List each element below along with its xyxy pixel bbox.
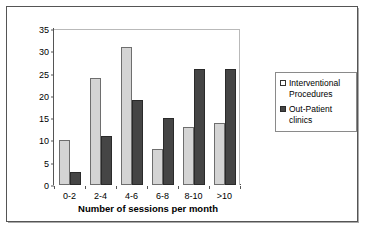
x-tick-label: 4-6 [125,192,138,201]
bar-2-4-interventional[interactable] [90,78,101,185]
x-tick-mark [209,186,210,189]
bar-group [209,29,240,185]
legend-swatch-interventional-icon [280,80,286,86]
chart-frame: % of pain specialists 05101520253035 0-2… [6,6,358,222]
x-tick-mark [54,186,55,189]
bar-group [54,29,85,185]
bar-6-8-interventional[interactable] [152,149,163,185]
bar-2-4-outpatient[interactable] [101,136,112,185]
legend-item: Interventional Procedures [280,78,352,99]
x-tick-label: 8-10 [184,192,202,201]
x-axis-title: Number of sessions per month [54,204,242,214]
legend-swatch-outpatient-icon [280,106,286,112]
x-tick-mark [116,186,117,189]
bar-8-10-interventional[interactable] [183,127,194,185]
x-tick-label: 0-2 [63,192,76,201]
bar-4-6-outpatient[interactable] [132,100,143,185]
legend-label: Interventional Procedures [289,78,352,99]
bar-group [147,29,178,185]
bar-4-6-interventional[interactable] [121,47,132,185]
x-tick-mark [147,186,148,189]
bar-group [116,29,147,185]
bar->10-outpatient[interactable] [225,69,236,185]
x-tick-label: >10 [217,192,232,201]
x-tick-label: 2-4 [94,192,107,201]
x-tick-mark [240,186,241,189]
plot-area: 05101520253035 0-22-44-66-88-10>10 [54,29,240,185]
bar-group [85,29,116,185]
bar-0-2-interventional[interactable] [59,140,70,185]
chart-legend: Interventional ProceduresOut-Patient cli… [275,72,357,132]
x-tick-label: 6-8 [156,192,169,201]
x-tick-mark [85,186,86,189]
bar-6-8-outpatient[interactable] [163,118,174,185]
legend-label: Out-Patient clinics [289,104,352,125]
bar-0-2-outpatient[interactable] [70,172,81,185]
x-tick-mark [178,186,179,189]
legend-item: Out-Patient clinics [280,104,352,125]
bar-group [178,29,209,185]
bar->10-interventional[interactable] [214,123,225,185]
bar-8-10-outpatient[interactable] [194,69,205,185]
